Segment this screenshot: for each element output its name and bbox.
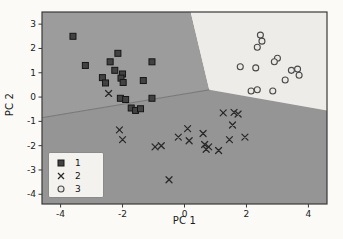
class-3-circle-marker	[288, 67, 294, 73]
class-1-square-marker	[138, 106, 144, 112]
y-tick-label: 3	[30, 19, 36, 29]
class-1-square-marker	[112, 67, 118, 73]
legend-label: 1	[75, 158, 81, 168]
class-1-square-marker	[120, 79, 126, 85]
class-1-square-marker	[123, 96, 129, 102]
class-1-square-marker	[149, 59, 155, 65]
class-1-square-marker	[115, 50, 121, 56]
y-tick-label: -2	[27, 141, 36, 151]
legend: 123	[48, 152, 104, 198]
legend-item-1: 1	[54, 156, 99, 169]
class-3-circle-marker	[296, 72, 302, 78]
class-3-circle-marker	[237, 64, 243, 70]
class-3-circle-marker	[259, 38, 265, 44]
class-3-circle-marker	[253, 65, 259, 71]
class-1-square-marker	[103, 80, 109, 86]
cross-marker-icon	[54, 171, 68, 181]
square-marker-icon	[54, 158, 68, 168]
y-tick-label: -3	[27, 165, 36, 175]
class-3-circle-marker	[254, 44, 260, 50]
class-1-square-marker	[70, 33, 76, 39]
y-tick-label: -1	[27, 116, 36, 126]
y-tick-label: 2	[30, 43, 36, 53]
y-tick-label: 1	[30, 68, 36, 78]
class-3-circle-marker	[257, 32, 263, 38]
legend-label: 3	[75, 184, 81, 194]
class-1-square-marker	[82, 62, 88, 68]
class-1-square-marker	[107, 59, 113, 65]
class-3-circle-marker	[248, 88, 254, 94]
scatter-plot-canvas: -4-2024-4-3-2-10123	[0, 0, 343, 239]
legend-label: 2	[75, 171, 81, 181]
y-axis-label: PC 2	[4, 50, 15, 160]
y-tick-label: 0	[30, 92, 36, 102]
legend-item-3: 3	[54, 182, 99, 195]
class-3-circle-marker	[295, 66, 301, 72]
class-1-square-marker	[140, 78, 146, 84]
circle-marker-icon	[54, 184, 68, 194]
y-tick-label: -4	[27, 189, 36, 199]
class-1-square-marker	[149, 95, 155, 101]
pca-decision-region-figure: -4-2024-4-3-2-10123 PC 1 PC 2 123	[0, 0, 343, 239]
class-3-circle-marker	[282, 77, 288, 83]
class-3-circle-marker	[271, 59, 277, 65]
class-3-circle-marker	[270, 88, 276, 94]
legend-item-2: 2	[54, 169, 99, 182]
class-3-circle-marker	[254, 87, 260, 93]
x-axis-label: PC 1	[42, 215, 327, 226]
